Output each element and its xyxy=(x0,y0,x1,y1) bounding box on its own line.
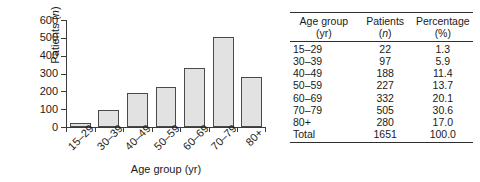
stats-table-panel: Age group Patients Percentage (yr) (n) (… xyxy=(285,0,480,182)
cell-patients: 505 xyxy=(358,104,413,116)
cell-age-group: 15–29 xyxy=(290,41,358,55)
table-header-row-primary: Age group Patients Percentage xyxy=(290,13,473,28)
bar-slot xyxy=(237,20,266,127)
bar-slot xyxy=(152,20,181,127)
x-tick-label-slot: 70–79 xyxy=(209,133,238,159)
cell-total-percentage: 100.0 xyxy=(413,129,473,143)
column-header-age-group-unit: (yr) xyxy=(290,27,358,41)
bar-80-plus xyxy=(241,77,262,127)
cell-age-group: 80+ xyxy=(290,116,358,128)
cell-percentage: 1.3 xyxy=(413,41,473,55)
table-row: 30–39 97 5.9 xyxy=(290,55,473,67)
y-tick-label-300: 300 xyxy=(24,67,58,79)
cell-total-patients: 1651 xyxy=(358,129,413,143)
x-tick-label-slot: 50–59 xyxy=(152,133,181,159)
cell-percentage: 20.1 xyxy=(413,92,473,104)
bar-slot xyxy=(180,20,209,127)
x-tick-label-slot: 80+ xyxy=(237,133,266,159)
figure-container: Patients (n) 0 100 200 300 400 500 xyxy=(0,0,480,182)
y-tick-label-600: 600 xyxy=(24,14,58,26)
age-group-stats-table: Age group Patients Percentage (yr) (n) (… xyxy=(290,12,473,143)
y-tick-label-400: 400 xyxy=(24,49,58,61)
cell-percentage: 30.6 xyxy=(413,104,473,116)
table-body: 15–29 22 1.3 30–39 97 5.9 40–49 188 11.4… xyxy=(290,41,473,143)
y-tick-label-100: 100 xyxy=(24,103,58,115)
cell-age-group: 50–59 xyxy=(290,80,358,92)
cell-total-label: Total xyxy=(290,129,358,143)
column-header-patients: Patients xyxy=(358,13,413,28)
table-head: Age group Patients Percentage (yr) (n) (… xyxy=(290,13,473,42)
x-axis-tick-labels: 15–29 30–39 40–49 50–59 60–69 70–79 80+ xyxy=(66,133,266,159)
cell-patients: 22 xyxy=(358,41,413,55)
table-header-row-units: (yr) (n) (%) xyxy=(290,27,473,41)
bar-60-69 xyxy=(184,68,205,127)
column-header-age-group: Age group xyxy=(290,13,358,28)
bar-series xyxy=(66,20,266,127)
table-row: 70–79 505 30.6 xyxy=(290,104,473,116)
table-row: 40–49 188 11.4 xyxy=(290,68,473,80)
x-tick-label-slot: 15–29 xyxy=(66,133,95,159)
column-header-percentage: Percentage xyxy=(413,13,473,28)
table-row: 80+ 280 17.0 xyxy=(290,116,473,128)
y-tick-label-500: 500 xyxy=(24,31,58,43)
table-total-row: Total 1651 100.0 xyxy=(290,129,473,143)
bar-slot xyxy=(209,20,238,127)
bar-slot xyxy=(123,20,152,127)
bar-70-79 xyxy=(213,37,234,127)
cell-patients: 332 xyxy=(358,92,413,104)
cell-age-group: 70–79 xyxy=(290,104,358,116)
cell-patients: 188 xyxy=(358,68,413,80)
x-tick-label-slot: 40–49 xyxy=(123,133,152,159)
x-tick-boundary xyxy=(66,127,67,132)
cell-percentage: 13.7 xyxy=(413,80,473,92)
x-tick-label-slot: 60–69 xyxy=(180,133,209,159)
table-row: 60–69 332 20.1 xyxy=(290,92,473,104)
x-tick-label-80-plus: 80+ xyxy=(243,126,265,148)
x-tick-label-slot: 30–39 xyxy=(95,133,124,159)
bar-50-59 xyxy=(156,87,177,127)
x-axis-title: Age group (yr) xyxy=(66,163,266,175)
bar-slot xyxy=(66,20,95,127)
cell-patients: 280 xyxy=(358,116,413,128)
table-row: 15–29 22 1.3 xyxy=(290,41,473,55)
bar-slot xyxy=(95,20,124,127)
x-tick-boundary xyxy=(265,127,266,132)
cell-age-group: 40–49 xyxy=(290,68,358,80)
column-header-patients-unit: (n) xyxy=(358,27,413,41)
cell-percentage: 11.4 xyxy=(413,68,473,80)
cell-percentage: 5.9 xyxy=(413,55,473,67)
plot-area: 0 100 200 300 400 500 600 xyxy=(66,20,266,127)
y-tick-label-0: 0 xyxy=(24,121,58,133)
cell-patients: 227 xyxy=(358,80,413,92)
column-header-percentage-unit: (%) xyxy=(413,27,473,41)
cell-percentage: 17.0 xyxy=(413,116,473,128)
table-row: 50–59 227 13.7 xyxy=(290,80,473,92)
cell-age-group: 30–39 xyxy=(290,55,358,67)
cell-patients: 97 xyxy=(358,55,413,67)
bar-chart-panel: Patients (n) 0 100 200 300 400 500 xyxy=(0,0,285,182)
column-header-patients-italic-n: n xyxy=(382,27,388,39)
cell-age-group: 60–69 xyxy=(290,92,358,104)
y-tick-label-200: 200 xyxy=(24,85,58,97)
